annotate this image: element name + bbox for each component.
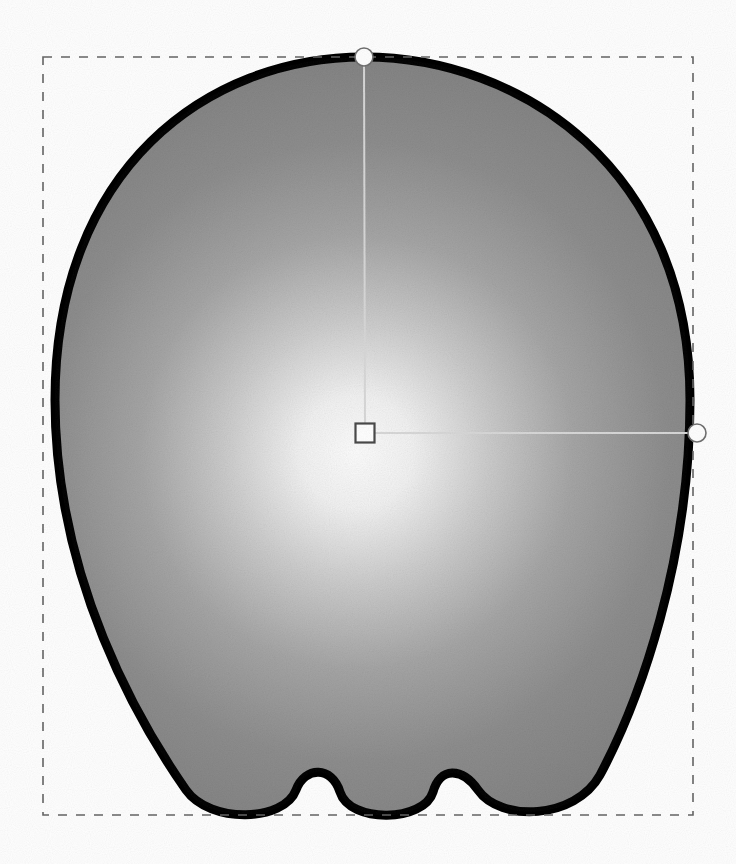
gradient-radius-handle-horizontal[interactable] xyxy=(688,424,706,442)
gradient-radius-handle-vertical[interactable] xyxy=(355,48,373,66)
drawing-canvas[interactable] xyxy=(0,0,736,864)
artboard[interactable] xyxy=(0,0,736,864)
gradient-axis-line-vertical[interactable] xyxy=(364,57,365,424)
gradient-center-handle[interactable] xyxy=(356,424,375,443)
